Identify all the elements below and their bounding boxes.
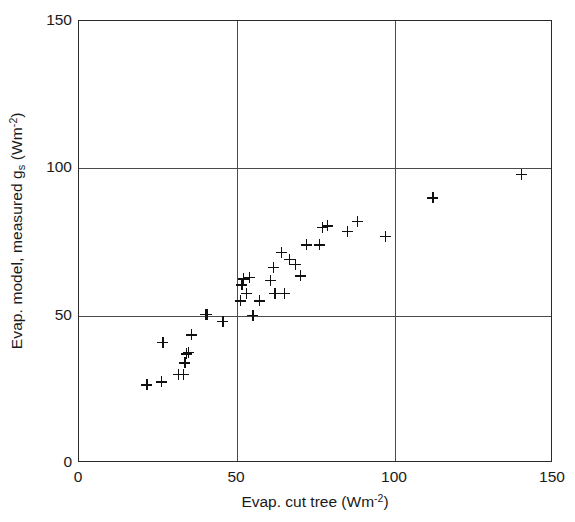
data-point-marker (268, 262, 279, 273)
data-point-marker (427, 192, 438, 203)
data-point-marker (200, 309, 211, 320)
x-axis-title-main: Evap. cut tree (Wm (241, 493, 374, 510)
scatter-chart-figure: Evap. model, measured gs (Wm-2) 05010015… (0, 0, 575, 522)
data-point-marker (516, 169, 527, 180)
x-axis-tick-label: 0 (74, 468, 83, 486)
data-point-marker (342, 226, 353, 237)
x-axis-title-tail: ) (383, 493, 388, 510)
data-point-marker (156, 376, 167, 387)
y-axis-title-main: Evap. model, measured g (8, 170, 25, 349)
data-point-marker (295, 270, 306, 281)
data-point-marker (269, 288, 280, 299)
data-point-marker (279, 288, 290, 299)
gridline-vertical (237, 21, 238, 461)
data-point-marker (244, 272, 255, 283)
data-point-marker (284, 254, 295, 265)
y-axis-title-subscript: s (15, 165, 27, 171)
gridline-horizontal (79, 316, 551, 317)
data-point-marker (322, 220, 333, 231)
data-point-marker (352, 216, 363, 227)
data-point-marker (265, 275, 276, 286)
gridline-vertical (395, 21, 396, 461)
y-axis-tick-label: 0 (32, 453, 72, 471)
data-point-marker (201, 309, 212, 320)
x-axis-tick-label: 50 (227, 468, 244, 486)
x-axis-tick-label: 150 (539, 468, 565, 486)
plot-area (78, 20, 552, 462)
y-axis-tick-label: 100 (32, 158, 72, 176)
data-point-marker (241, 288, 252, 299)
data-point-marker (380, 231, 391, 242)
gridline-horizontal (79, 168, 551, 169)
data-point-marker (317, 222, 328, 233)
data-point-marker (301, 239, 312, 250)
data-point-marker (290, 259, 301, 270)
y-axis-tick-label: 50 (32, 306, 72, 324)
data-point-marker (178, 369, 189, 380)
y-axis-title-tail: ) (8, 113, 25, 118)
data-point-marker (173, 369, 184, 380)
data-point-marker (238, 273, 249, 284)
data-point-marker (186, 329, 197, 340)
x-axis-title-superscript: -2 (374, 492, 383, 504)
y-axis-title-superscript: -2 (6, 118, 18, 128)
data-point-marker (183, 347, 194, 358)
data-point-marker (254, 295, 265, 306)
y-axis-tick-labels: 050100150 (28, 0, 72, 522)
y-axis-title-units: (Wm (8, 127, 25, 164)
y-axis-title: Evap. model, measured gs (Wm-2) (7, 113, 27, 350)
data-point-marker (141, 379, 152, 390)
y-axis-tick-label: 150 (32, 11, 72, 29)
data-point-marker (157, 337, 168, 348)
data-point-marker (276, 247, 287, 258)
data-point-marker (314, 239, 325, 250)
x-axis-title: Evap. cut tree (Wm-2) (78, 492, 552, 511)
x-axis-tick-label: 100 (381, 468, 407, 486)
data-point-marker (179, 357, 190, 368)
data-point-marker (181, 348, 192, 359)
data-point-marker (217, 316, 228, 327)
